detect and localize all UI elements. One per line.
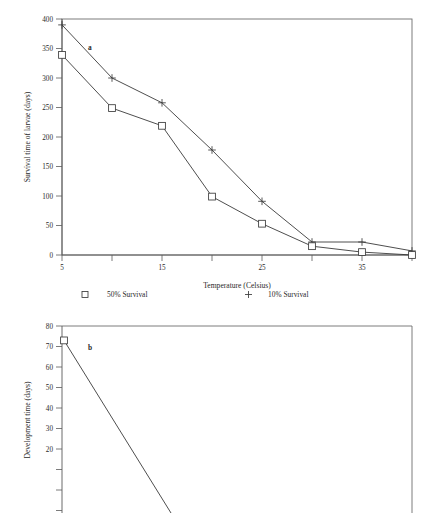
panel-b-label: b (88, 343, 92, 352)
y-ticklabel: 200 (42, 134, 53, 142)
y-ticklabel: 350 (42, 45, 53, 53)
y-ticklabel: 80 (46, 323, 54, 331)
x-ticklabel: 5 (60, 264, 64, 272)
y-ticklabel: 50 (46, 384, 54, 392)
y-ticklabel: 20 (46, 446, 54, 454)
panel-b: 80 70 60 50 40 30 20 b Development time … (0, 305, 428, 513)
legend: 50% Survival 10% Survival (82, 290, 308, 299)
figure-container: 0 50 100 150 200 250 300 350 400 (0, 0, 428, 513)
panel-a-x-axis-title: Temperature (Celsius) (203, 281, 271, 290)
panel-b-series-marker (61, 337, 68, 344)
y-ticklabel: 0 (49, 252, 53, 260)
legend-label-10pct: 10% Survival (268, 290, 308, 299)
x-ticklabel: 25 (258, 264, 266, 272)
y-ticklabel: 60 (46, 364, 54, 372)
panel-a-y-axis-title: Survival time of larvae (days) (23, 91, 32, 182)
panel-b-y-ticks (56, 326, 62, 511)
y-ticklabel: 40 (46, 405, 54, 413)
y-ticklabel: 300 (42, 75, 53, 83)
panel-a-svg: 0 50 100 150 200 250 300 350 400 (0, 0, 428, 305)
series-line-10pct (62, 25, 412, 251)
panel-b-svg: 80 70 60 50 40 30 20 b Development time … (0, 305, 428, 513)
y-ticklabel: 250 (42, 104, 53, 112)
y-ticklabel: 70 (46, 343, 54, 351)
y-ticklabel: 30 (46, 425, 54, 433)
x-ticklabel: 35 (358, 264, 366, 272)
panel-a-y-ticklabels: 0 50 100 150 200 250 300 350 400 (42, 16, 53, 260)
series-markers-50pct (59, 52, 416, 259)
panel-b-series-line (64, 340, 171, 513)
series-markers-10pct (58, 21, 416, 255)
panel-a-plot-frame (62, 19, 412, 255)
legend-label-50pct: 50% Survival (107, 290, 147, 299)
y-ticklabel: 50 (46, 222, 54, 230)
x-ticklabel: 15 (158, 264, 166, 272)
panel-b-y-axis-title: Development time (days) (23, 381, 32, 459)
y-ticklabel: 150 (42, 163, 53, 171)
legend-marker-open-square-icon (82, 292, 88, 298)
legend-marker-plus-icon (245, 291, 252, 298)
panel-a: 0 50 100 150 200 250 300 350 400 (0, 0, 428, 305)
series-line-50pct (62, 55, 412, 255)
y-ticklabel: 100 (42, 193, 53, 201)
panel-a-x-ticklabels: 5 15 25 35 (60, 264, 366, 272)
legend-item-10pct: 10% Survival (245, 290, 308, 299)
panel-b-y-ticklabels: 80 70 60 50 40 30 20 (46, 323, 54, 454)
y-ticklabel: 400 (42, 16, 53, 24)
panel-a-label: a (88, 43, 92, 52)
legend-item-50pct: 50% Survival (82, 290, 147, 299)
